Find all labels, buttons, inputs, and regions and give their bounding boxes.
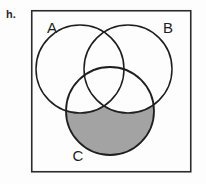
- set-label-a: A: [47, 19, 57, 36]
- set-label-b: B: [163, 19, 173, 36]
- venn-diagram: A B C: [0, 0, 206, 184]
- venn-figure-panel: h. A B C: [0, 0, 206, 184]
- set-label-c: C: [73, 147, 84, 164]
